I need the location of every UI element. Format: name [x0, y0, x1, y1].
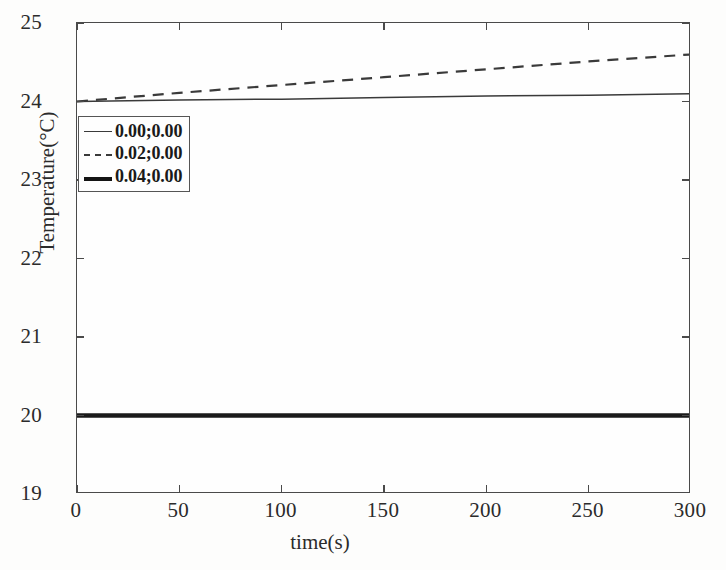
- y-tick-mark-3: [77, 258, 84, 259]
- legend-label-2: 0.04;0.00: [115, 166, 182, 187]
- series-line-0: [77, 94, 690, 102]
- y-tick-mark-6: [77, 22, 84, 23]
- legend-line-sample-solid-thick: [83, 171, 113, 183]
- y-tick-label-0: 19: [0, 481, 42, 506]
- y-tick-mark-5: [682, 101, 689, 102]
- x-tick-mark-4: [486, 23, 487, 30]
- x-tick-mark-1: [179, 485, 180, 492]
- legend-line-sample-solid-thin: [83, 125, 113, 137]
- x-tick-mark-5: [588, 485, 589, 492]
- y-tick-mark-6: [682, 22, 689, 23]
- legend-label-1: 0.02;0.00: [115, 143, 182, 164]
- x-axis-title-text: time(s): [290, 530, 349, 555]
- y-tick-mark-1: [77, 415, 84, 416]
- x-tick-label-3: 150: [348, 498, 418, 523]
- x-tick-mark-1: [179, 23, 180, 30]
- legend-entry-2: 0.04;0.00: [83, 166, 185, 188]
- legend-label-0: 0.00;0.00: [115, 121, 182, 142]
- chart-legend: 0.00;0.00 0.02;0.00 0.04;0.00: [78, 116, 190, 192]
- y-tick-mark-1: [682, 415, 689, 416]
- x-axis-title: time(s): [0, 530, 726, 555]
- y-tick-mark-2: [77, 336, 84, 337]
- legend-entry-0: 0.00;0.00: [83, 120, 185, 142]
- x-tick-mark-3: [383, 23, 384, 30]
- x-tick-label-1: 50: [143, 498, 213, 523]
- y-tick-mark-4: [682, 179, 689, 180]
- x-tick-label-0: 0: [41, 498, 111, 523]
- y-axis-title: Temperature(°C): [35, 0, 60, 383]
- x-tick-mark-4: [486, 485, 487, 492]
- y-tick-mark-3: [682, 258, 689, 259]
- y-tick-mark-5: [77, 101, 84, 102]
- x-tick-mark-0: [76, 23, 77, 30]
- y-tick-label-1: 20: [0, 402, 42, 427]
- x-tick-label-2: 100: [246, 498, 316, 523]
- legend-line-sample-dashed: [83, 148, 113, 160]
- x-tick-label-4: 200: [450, 498, 520, 523]
- y-tick-mark-2: [682, 336, 689, 337]
- x-tick-mark-3: [383, 485, 384, 492]
- x-tick-mark-5: [588, 23, 589, 30]
- plot-area: [76, 22, 690, 493]
- chart-figure: 19202122232425 050100150200250300 Temper…: [0, 0, 726, 570]
- x-tick-mark-0: [76, 485, 77, 492]
- legend-entry-1: 0.02;0.00: [83, 143, 185, 165]
- x-tick-label-5: 250: [553, 498, 623, 523]
- plot-lines: [77, 23, 690, 493]
- x-tick-mark-2: [281, 485, 282, 492]
- x-tick-label-6: 300: [655, 498, 725, 523]
- x-tick-mark-2: [281, 23, 282, 30]
